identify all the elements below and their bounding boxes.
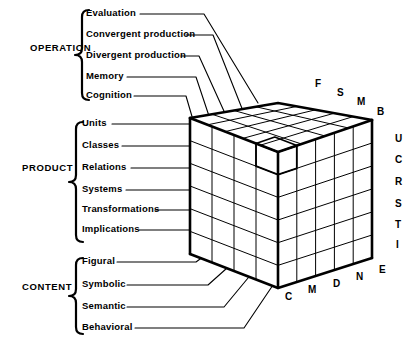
leader-line-operation	[186, 35, 243, 111]
item-label-product-2: Relations	[82, 161, 127, 172]
category-label-product: PRODUCT	[22, 162, 73, 173]
item-label-content-3: Behavioral	[82, 321, 133, 332]
leader-line-operation	[134, 96, 198, 137]
product-letter-0: U	[395, 133, 402, 144]
item-label-product-3: Systems	[82, 183, 122, 194]
item-label-operation-2: Divergent production	[86, 49, 186, 60]
item-label-operation-1: Convergent production	[86, 28, 195, 39]
item-label-product-1: Classes	[82, 139, 119, 150]
item-label-product-5: Implications	[82, 223, 140, 234]
operation-letter-2: D	[333, 278, 340, 289]
operation-letter-4: E	[379, 264, 386, 275]
operation-letter-3: N	[356, 271, 363, 282]
product-letter-3: S	[395, 198, 402, 209]
item-label-content-2: Semantic	[82, 300, 126, 311]
product-letter-2: R	[395, 176, 402, 187]
leader-line-operation	[181, 56, 228, 120]
content-letter-3: B	[377, 106, 384, 117]
item-label-product-0: Units	[82, 117, 107, 128]
item-label-operation-4: Cognition	[86, 89, 132, 100]
content-letter-0: F	[315, 78, 321, 89]
content-letter-1: S	[337, 87, 344, 98]
brace-content	[69, 258, 83, 334]
operation-letter-1: M	[308, 284, 316, 295]
operation-letter-0: C	[285, 291, 292, 302]
leader-line-content	[127, 272, 253, 307]
category-label-operation: OPERATION	[30, 42, 91, 53]
item-label-content-1: Symbolic	[82, 278, 126, 289]
product-letter-1: C	[395, 154, 402, 165]
item-label-content-0: Figural	[82, 255, 115, 266]
content-letter-2: M	[357, 96, 365, 107]
category-label-content: CONTENT	[22, 281, 72, 292]
product-letter-5: I	[396, 239, 399, 250]
product-letter-4: T	[395, 219, 401, 230]
item-label-product-4: Transformations	[82, 203, 159, 214]
item-label-operation-3: Memory	[86, 70, 124, 81]
item-label-operation-0: Evaluation	[86, 7, 136, 18]
brace-product	[69, 122, 83, 242]
structure-of-intellect-diagram: OPERATIONEvaluationConvergent production…	[0, 0, 410, 340]
